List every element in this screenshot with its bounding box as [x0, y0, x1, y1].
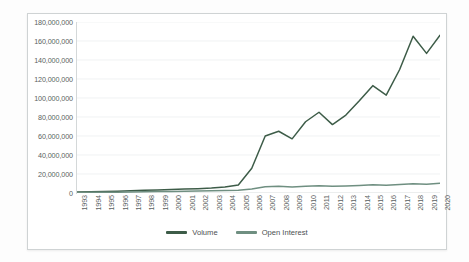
x-axis-tick-label: 1999 [161, 195, 170, 211]
x-axis-tick-label: 2007 [268, 195, 277, 211]
x-axis-tick-label: 2006 [255, 195, 264, 211]
x-axis-tick-label: 2010 [309, 195, 318, 211]
y-axis-tick-label: 100,000,000 [34, 94, 73, 103]
chart-legend: Volume Open Interest [27, 228, 447, 237]
x-axis-tick-label: 2003 [215, 195, 224, 211]
x-axis-tick-label: 2008 [282, 195, 291, 211]
legend-swatch-volume [166, 231, 187, 233]
y-axis-tick-label: 140,000,000 [34, 56, 73, 65]
series-lines [77, 35, 440, 192]
x-axis-tick-label: 1997 [134, 195, 143, 211]
x-axis-labels: 1993199419951996199719981999200020012002… [77, 195, 440, 225]
x-axis-tick-label: 1993 [80, 195, 89, 211]
series-line-volume [77, 35, 440, 192]
y-axis-tick-label: 60,000,000 [38, 132, 73, 141]
x-axis-tick-label: 2001 [188, 195, 197, 211]
x-axis-tick-label: 2009 [295, 195, 304, 211]
y-axis-tick-label: 180,000,000 [34, 18, 73, 27]
x-axis-tick-label: 2012 [336, 195, 345, 211]
gridlines [77, 22, 440, 193]
x-axis-tick-label: 1995 [107, 195, 116, 211]
x-axis-tick-label: 2011 [322, 195, 331, 210]
y-axis-labels: 020,000,00040,000,00060,000,00080,000,00… [27, 13, 77, 203]
legend-item-volume[interactable]: Volume [166, 228, 217, 237]
x-axis-tick-label: 1994 [94, 195, 103, 211]
x-axis-tick-label: 2018 [416, 195, 425, 211]
chart-svg [77, 22, 440, 193]
x-axis-tick-label: 2000 [174, 195, 183, 211]
legend-swatch-open-interest [236, 231, 257, 233]
legend-label-open-interest: Open Interest [262, 228, 308, 237]
x-axis-tick-label: 2002 [201, 195, 210, 211]
x-axis-tick-label: 2016 [389, 195, 398, 211]
x-axis-tick-label: 2014 [363, 195, 372, 211]
y-axis-tick-label: 0 [69, 189, 73, 198]
legend-label-volume: Volume [192, 228, 217, 237]
y-axis-tick-label: 40,000,000 [38, 151, 73, 160]
x-axis-tick-label: 2020 [443, 195, 452, 211]
x-axis-tick-label: 2013 [349, 195, 358, 211]
x-axis-tick-label: 2015 [376, 195, 385, 211]
x-axis-tick-label: 1998 [147, 195, 156, 211]
y-axis-tick-label: 120,000,000 [34, 75, 73, 84]
x-axis-tick-label: 2005 [242, 195, 251, 211]
chart-screenshot: 020,000,00040,000,00060,000,00080,000,00… [0, 0, 469, 262]
y-axis-tick-label: 80,000,000 [38, 113, 73, 122]
plot-area [77, 22, 440, 193]
legend-item-open-interest[interactable]: Open Interest [236, 228, 308, 237]
y-axis-tick-label: 20,000,000 [38, 170, 73, 179]
x-axis-tick-label: 2019 [430, 195, 439, 211]
x-axis-tick-label: 2004 [228, 195, 237, 211]
y-axis-tick-label: 160,000,000 [34, 37, 73, 46]
x-axis-tick-label: 2017 [403, 195, 412, 211]
x-axis-tick-label: 1996 [121, 195, 130, 211]
